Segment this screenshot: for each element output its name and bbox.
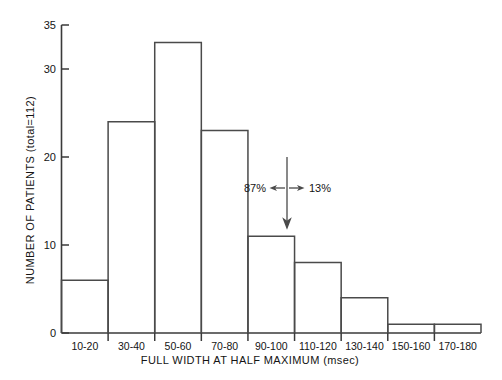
x-tick-label: 170-180: [438, 340, 477, 352]
histogram-figure: NUMBER OF PATIENTS (total=112) 0 10 20 3…: [0, 0, 502, 380]
y-tick-label-0: 0: [50, 327, 56, 339]
y-tick-label-10: 10: [44, 239, 56, 251]
x-tick-label: 130-140: [345, 340, 384, 352]
y-tick-label-30: 30: [44, 63, 56, 75]
histogram-bar: [295, 263, 342, 333]
histogram-canvas: NUMBER OF PATIENTS (total=112) 0 10 20 3…: [0, 0, 502, 380]
x-tick-label: 70-80: [211, 340, 238, 352]
histogram-bar: [248, 236, 295, 333]
right-percent-label: 13%: [309, 182, 331, 194]
histogram-bar: [341, 298, 388, 333]
y-tick-label-20: 20: [44, 151, 56, 163]
x-tick-label: 110-120: [299, 340, 337, 352]
x-tick-label: 10-20: [71, 340, 98, 352]
x-tick-label: 90-100: [255, 340, 288, 352]
histogram-bar: [155, 43, 202, 333]
split-annotation: 87% 13%: [244, 157, 331, 228]
x-tick-label: 150-160: [392, 340, 431, 352]
x-tick-label: 50-60: [165, 340, 192, 352]
x-axis-title: FULL WIDTH AT HALF MAXIMUM (msec): [141, 354, 359, 366]
histogram-bar: [108, 122, 155, 333]
histogram-bar: [434, 324, 481, 333]
y-tick-labels: 0 10 20 30 35: [44, 19, 56, 339]
histogram-bar: [201, 131, 248, 333]
x-tick-label: 30-40: [118, 340, 145, 352]
left-percent-label: 87%: [244, 182, 266, 194]
x-tick-labels: 10-2030-4050-6070-8090-100110-120130-140…: [71, 340, 477, 352]
y-tick-label-35: 35: [44, 19, 56, 31]
histogram-bar: [62, 280, 109, 333]
y-axis-ticks: [62, 25, 70, 333]
histogram-bar: [388, 324, 435, 333]
y-axis-title: NUMBER OF PATIENTS (total=112): [24, 96, 36, 284]
